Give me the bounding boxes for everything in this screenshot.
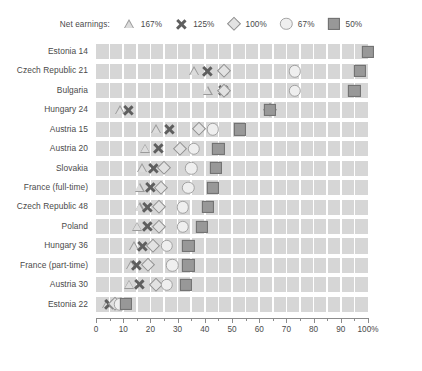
- gridline: [218, 42, 220, 314]
- gridline: [231, 42, 233, 314]
- gridline: [340, 42, 342, 314]
- x-tick-minor: [300, 318, 301, 321]
- triangle-marker-icon: [137, 163, 147, 172]
- square-marker-icon: [182, 259, 194, 271]
- triangle-marker-icon: [132, 222, 142, 231]
- legend-symbol-square: [327, 17, 342, 32]
- legend-entry-50[interactable]: 50%: [327, 17, 363, 32]
- y-axis-label-2: Bulgaria: [57, 81, 88, 100]
- triangle-marker-icon: [135, 183, 145, 192]
- legend-entry-167[interactable]: 167%: [122, 17, 162, 32]
- y-axis-label-3: Hungary 24: [44, 100, 88, 119]
- y-axis-label-0: Estonia 14: [48, 42, 88, 61]
- x-tick-major: [286, 318, 287, 323]
- x-tick-minor: [191, 318, 192, 321]
- square-marker-icon: [210, 162, 222, 174]
- square-marker-icon: [180, 279, 192, 291]
- x-tick-major: [259, 318, 260, 323]
- x-tick-major: [341, 318, 342, 323]
- x-tick-major: [96, 318, 97, 323]
- x-tick-label-5: 50: [227, 325, 236, 334]
- x-marker-icon: [164, 124, 175, 135]
- x-tick-minor: [137, 318, 138, 321]
- gridline: [258, 42, 260, 314]
- legend-symbol-diamond: [226, 17, 241, 32]
- x-tick-minor: [110, 318, 111, 321]
- square-marker-icon: [201, 201, 213, 213]
- square-marker-icon: [264, 104, 276, 116]
- x-marker-icon: [123, 105, 134, 116]
- plot-area: [96, 42, 368, 314]
- x-tick-label-7: 70: [282, 325, 291, 334]
- gridline: [109, 42, 111, 314]
- y-axis-label-11: France (part-time): [20, 256, 88, 275]
- gridline: [190, 42, 192, 314]
- square-marker-icon: [362, 46, 374, 58]
- gridline: [272, 42, 274, 314]
- y-axis-labels: Estonia 14Czech Republic 21BulgariaHunga…: [0, 42, 92, 314]
- x-marker-icon: [176, 19, 187, 30]
- x-tick-label-2: 20: [146, 325, 155, 334]
- triangle-marker-icon: [140, 144, 150, 153]
- legend-label: 50%: [346, 20, 363, 29]
- triangle-marker-icon: [203, 86, 213, 95]
- gridline: [286, 42, 288, 314]
- square-marker-icon: [207, 182, 219, 194]
- legend-entry-100[interactable]: 100%: [226, 17, 266, 32]
- x-tick-major: [178, 318, 179, 323]
- y-axis-label-5: Austria 20: [50, 139, 88, 158]
- legend-label: 100%: [245, 20, 266, 29]
- legend-entry-67[interactable]: 67%: [279, 17, 315, 32]
- x-tick-minor: [164, 318, 165, 321]
- x-tick-major: [368, 318, 369, 323]
- gridline: [326, 42, 328, 314]
- square-marker-icon: [354, 65, 366, 77]
- square-marker-icon: [234, 123, 246, 135]
- x-tick-label-6: 60: [255, 325, 264, 334]
- legend-symbol-x: [174, 17, 189, 32]
- triangle-marker-icon: [124, 19, 134, 28]
- x-tick-major: [314, 318, 315, 323]
- y-axis-label-9: Poland: [62, 217, 88, 236]
- x-tick-minor: [218, 318, 219, 321]
- y-axis-label-13: Estonia 22: [48, 295, 88, 314]
- x-tick-minor: [327, 318, 328, 321]
- legend-entry-125[interactable]: 125%: [174, 17, 214, 32]
- x-tick-major: [232, 318, 233, 323]
- gridline: [163, 42, 165, 314]
- circle-marker-icon: [280, 18, 292, 30]
- legend-symbol-circle: [279, 17, 294, 32]
- y-axis-label-8: Czech Republic 48: [17, 197, 88, 216]
- x-marker-icon: [202, 66, 213, 77]
- gridline: [299, 42, 301, 314]
- square-marker-icon: [196, 220, 208, 232]
- gridline: [313, 42, 315, 314]
- gridline: [204, 42, 206, 314]
- gridline: [354, 42, 356, 314]
- plot-wrapper: Estonia 14Czech Republic 21BulgariaHunga…: [0, 42, 422, 332]
- square-marker-icon: [212, 143, 224, 155]
- chart-root: Net earnings: 167%125%100%67%50% Estonia…: [0, 0, 422, 371]
- square-marker-icon: [348, 84, 360, 96]
- y-axis-label-6: Slovakia: [56, 159, 88, 178]
- square-marker-icon: [182, 240, 194, 252]
- legend-symbol-triangle: [122, 17, 137, 32]
- gridline: [150, 42, 152, 314]
- x-tick-minor: [273, 318, 274, 321]
- legend-title: Net earnings:: [60, 20, 110, 29]
- x-tick-major: [123, 318, 124, 323]
- x-tick-major: [205, 318, 206, 323]
- legend-entries: 167%125%100%67%50%: [122, 17, 362, 32]
- y-axis-label-7: France (full-time): [24, 178, 88, 197]
- x-axis: 0102030405060708090100%: [96, 318, 368, 348]
- triangle-marker-icon: [124, 280, 134, 289]
- x-tick-label-0: 0: [94, 325, 99, 334]
- y-axis-label-1: Czech Republic 21: [17, 61, 88, 80]
- y-axis-label-4: Austria 15: [50, 120, 88, 139]
- legend-label: 125%: [193, 20, 214, 29]
- x-tick-label-9: 90: [336, 325, 345, 334]
- x-tick-minor: [354, 318, 355, 321]
- gridline: [177, 42, 179, 314]
- x-marker-icon: [134, 279, 145, 290]
- x-tick-label-3: 30: [173, 325, 182, 334]
